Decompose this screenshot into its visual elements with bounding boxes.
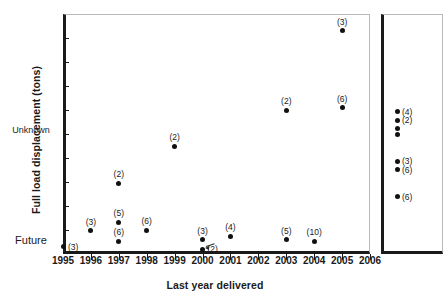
data-point xyxy=(116,239,121,244)
data-point-label: (3) xyxy=(337,18,347,27)
x-tick-mark xyxy=(286,254,287,260)
data-point-label: (3) xyxy=(86,218,96,227)
future-data-point xyxy=(395,167,400,172)
data-point-label: (2) xyxy=(169,133,179,142)
future-data-point xyxy=(395,118,400,123)
x-tick-mark xyxy=(230,254,231,260)
x-axis-title: Last year delivered xyxy=(55,279,375,291)
future-plot-panel xyxy=(381,14,443,254)
x-tick-mark xyxy=(370,254,371,260)
future-data-point xyxy=(395,159,400,164)
data-point xyxy=(228,234,233,239)
future-data-point xyxy=(395,126,400,131)
y-axis-title: Full load displacement (tons) xyxy=(30,40,42,240)
y-tick-mark xyxy=(63,230,69,231)
y-tick-mark xyxy=(63,62,69,63)
data-point-label: (5) xyxy=(114,209,124,218)
data-point-label: (3) xyxy=(197,227,207,236)
data-point xyxy=(312,239,317,244)
y-tick-mark xyxy=(63,206,69,207)
data-point-label: (2) xyxy=(208,245,218,254)
main-plot-panel xyxy=(63,14,370,254)
x-tick-mark xyxy=(91,254,92,260)
y-tick-mark xyxy=(63,38,69,39)
x-tick-mark xyxy=(342,254,343,260)
y-tick-mark xyxy=(63,182,69,183)
data-point xyxy=(340,105,345,110)
data-point-label: (2) xyxy=(281,97,291,106)
x-tick-mark xyxy=(119,254,120,260)
y-tick-mark xyxy=(63,86,69,87)
data-point-label: (3) xyxy=(68,243,78,252)
future-data-point-label: (6) xyxy=(402,166,412,175)
data-point-label: (5) xyxy=(281,227,291,236)
future-data-point-label: (2) xyxy=(402,116,412,125)
data-point-label: (6) xyxy=(114,228,124,237)
x-tick-mark xyxy=(314,254,315,260)
y-tick-mark xyxy=(63,158,69,159)
future-panel-footer: Future xyxy=(0,234,62,246)
x-tick-mark xyxy=(258,254,259,260)
x-tick-mark xyxy=(175,254,176,260)
data-point xyxy=(284,237,289,242)
data-point xyxy=(340,28,345,33)
data-point xyxy=(172,144,177,149)
data-point-label: (4) xyxy=(225,223,235,232)
y-tick-mark xyxy=(63,134,69,135)
label-leader-arrow xyxy=(205,246,209,250)
x-tick-mark xyxy=(147,254,148,260)
data-point-label: (2) xyxy=(114,170,124,179)
data-point-label: (6) xyxy=(142,217,152,226)
data-point-label: (6) xyxy=(337,95,347,104)
data-point-label: (10) xyxy=(307,228,322,237)
future-data-point-label: (6) xyxy=(402,193,412,202)
future-data-point xyxy=(395,109,400,114)
chart-figure: Full load displacement (tons) Last year … xyxy=(0,0,448,298)
x-tick-mark xyxy=(203,254,204,260)
y-tick-mark xyxy=(63,110,69,111)
data-point xyxy=(284,108,289,113)
future-group-caption: Unknown xyxy=(0,126,62,135)
future-data-point xyxy=(395,194,400,199)
data-point xyxy=(144,228,149,233)
